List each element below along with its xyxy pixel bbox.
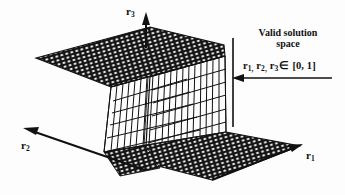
range-var-2: r2, — [256, 60, 267, 71]
valid-space-line-1: Valid solution — [259, 27, 318, 38]
upper-plateau-surface — [36, 27, 225, 87]
range-var-1: r1, — [243, 60, 254, 71]
element-of-symbol: ∈ — [278, 59, 290, 71]
range-var-3: r3 — [270, 60, 279, 71]
axis-label-r2: r2 — [21, 140, 30, 153]
axis-label-r1: r1 — [306, 150, 315, 163]
axis-label-r3: r3 — [126, 6, 135, 19]
figure-container: r3 r1 r2 Valid solutionspace r1, r2, r3∈… — [0, 0, 345, 195]
valid-space-pointer-arrow — [232, 74, 332, 82]
variable-range-annotation: r1, r2, r3∈[0, 1] — [243, 59, 316, 73]
valid-space-line-2: space — [234, 38, 342, 49]
range-interval: [0, 1] — [290, 60, 315, 71]
valid-solution-space-annotation: Valid solutionspace — [234, 27, 342, 49]
